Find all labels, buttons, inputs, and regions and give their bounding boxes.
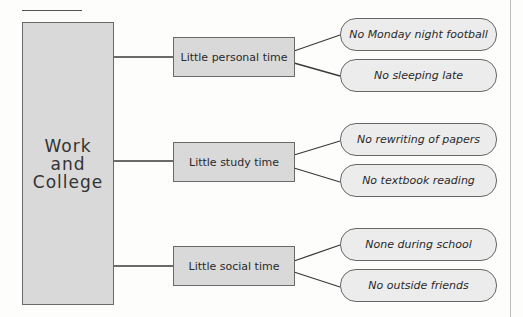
branch-node-personal-time: Little personal time — [173, 37, 295, 77]
branch-node-social-time: Little social time — [173, 246, 295, 286]
leaf-node: No textbook reading — [340, 164, 497, 197]
leaf-node: No rewriting of papers — [340, 123, 497, 156]
branch-node-label: Little personal time — [181, 51, 288, 64]
leaf-node-label: None during school — [365, 238, 471, 251]
branch-node-label: Little social time — [189, 260, 280, 273]
leaf-node: No outside friends — [340, 269, 497, 302]
leaf-node: No sleeping late — [340, 59, 497, 92]
leaf-node-label: No sleeping late — [374, 69, 463, 82]
root-node-label: Work and College — [33, 137, 103, 191]
branch-node-label: Little study time — [189, 156, 279, 169]
leaf-node-label: No rewriting of papers — [357, 133, 480, 146]
leaf-node-label: No outside friends — [368, 279, 468, 292]
leaf-node-label: No textbook reading — [362, 174, 475, 187]
branch-node-study-time: Little study time — [173, 142, 295, 182]
leaf-node: None during school — [340, 228, 497, 261]
leaf-node-label: No Monday night football — [349, 28, 488, 41]
root-node-work-and-college: Work and College — [22, 22, 114, 305]
leaf-node: No Monday night football — [340, 18, 497, 51]
